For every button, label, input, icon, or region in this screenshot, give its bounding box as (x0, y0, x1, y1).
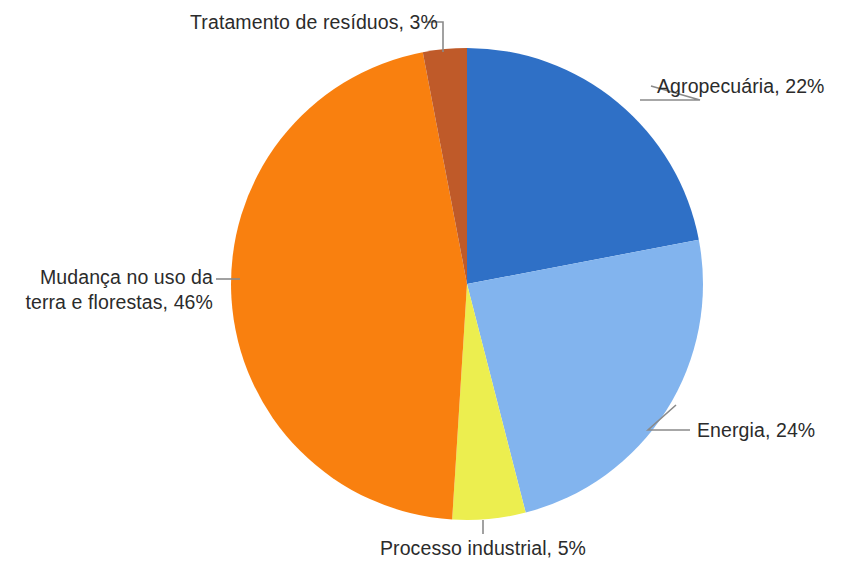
pie-slice-mudanca-no-uso-da-terra-e-florestas[interactable] (231, 52, 467, 519)
slice-label-agropecuaria: Agropecuária, 22% (657, 74, 844, 99)
pie-chart-figure: Tratamento de resíduos, 3% Agropecuária,… (0, 0, 844, 568)
slice-label-landuse-line-1: Mudança no uso da (40, 266, 213, 288)
slice-label-mudanca-no-uso-da-terra: Mudança no uso daterra e florestas, 46% (8, 265, 213, 315)
pie-slice-group (231, 48, 703, 520)
slice-label-landuse-line-2: terra e florestas, 46% (25, 291, 213, 313)
slice-label-processo-industrial: Processo industrial, 5% (338, 536, 628, 561)
slice-label-energia: Energia, 24% (697, 418, 844, 443)
slice-label-tratamento-de-residuos: Tratamento de resíduos, 3% (148, 10, 438, 35)
